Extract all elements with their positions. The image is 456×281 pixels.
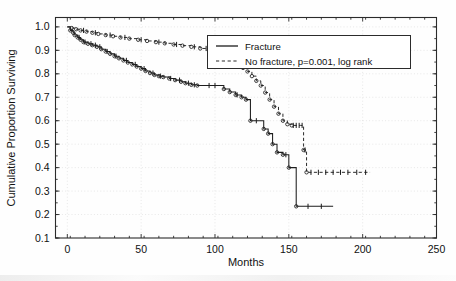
y-tick-label: 0.1: [35, 232, 50, 244]
y-axis-title: Cumulative Proportion Surviving: [5, 49, 17, 206]
survival-chart-figure: 0501001502002500.10.20.30.40.50.60.70.80…: [0, 0, 456, 281]
x-tick-label: 150: [280, 243, 298, 255]
x-tick-label: 0: [64, 243, 70, 255]
kaplan-meier-plot: 0501001502002500.10.20.30.40.50.60.70.80…: [0, 0, 456, 281]
y-tick-label: 0.2: [35, 208, 50, 220]
x-tick-label: 200: [354, 243, 372, 255]
y-tick-label: 0.6: [35, 114, 50, 126]
y-tick-label: 0.8: [35, 67, 50, 79]
x-tick-label: 50: [135, 243, 147, 255]
legend-label-fracture: Fracture: [245, 41, 281, 52]
x-axis-title: Months: [228, 256, 265, 268]
y-tick-label: 0.3: [35, 185, 50, 197]
x-tick-label: 250: [428, 243, 446, 255]
y-tick-label: 0.4: [35, 161, 50, 173]
legend-label-no-fracture: No fracture, p=0.001, log rank: [245, 56, 372, 67]
y-tick-label: 1.0: [35, 20, 50, 32]
y-tick-label: 0.5: [35, 138, 50, 150]
y-tick-label: 0.7: [35, 91, 50, 103]
legend: Fracture No fracture, p=0.001, log rank: [208, 36, 411, 69]
x-tick-label: 100: [206, 243, 224, 255]
y-tick-label: 0.9: [35, 44, 50, 56]
